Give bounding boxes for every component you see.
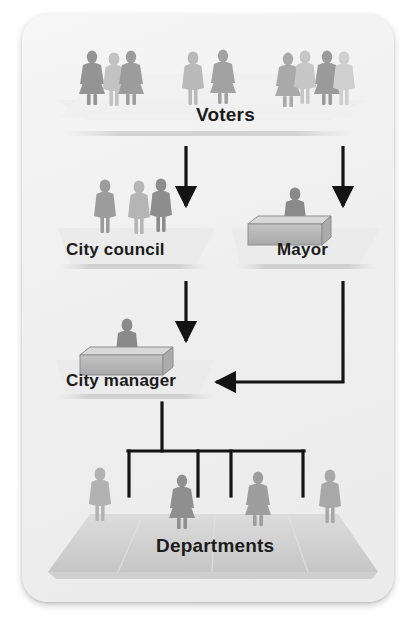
manager-person-icon xyxy=(116,318,138,351)
edge-mayor-manager xyxy=(216,281,343,382)
node-departments xyxy=(48,467,378,579)
label-departments: Departments xyxy=(156,535,274,557)
edge-manager-departments xyxy=(128,403,304,496)
label-voters: Voters xyxy=(196,104,255,126)
diagram-graphics xyxy=(0,0,416,623)
council-people-icon xyxy=(94,178,172,234)
label-city-manager: City manager xyxy=(66,371,176,391)
diagram-canvas: Voters City council Mayor City manager D… xyxy=(0,0,416,623)
mayor-person-icon xyxy=(284,187,306,220)
label-city-council: City council xyxy=(66,240,165,260)
label-mayor: Mayor xyxy=(277,240,328,260)
